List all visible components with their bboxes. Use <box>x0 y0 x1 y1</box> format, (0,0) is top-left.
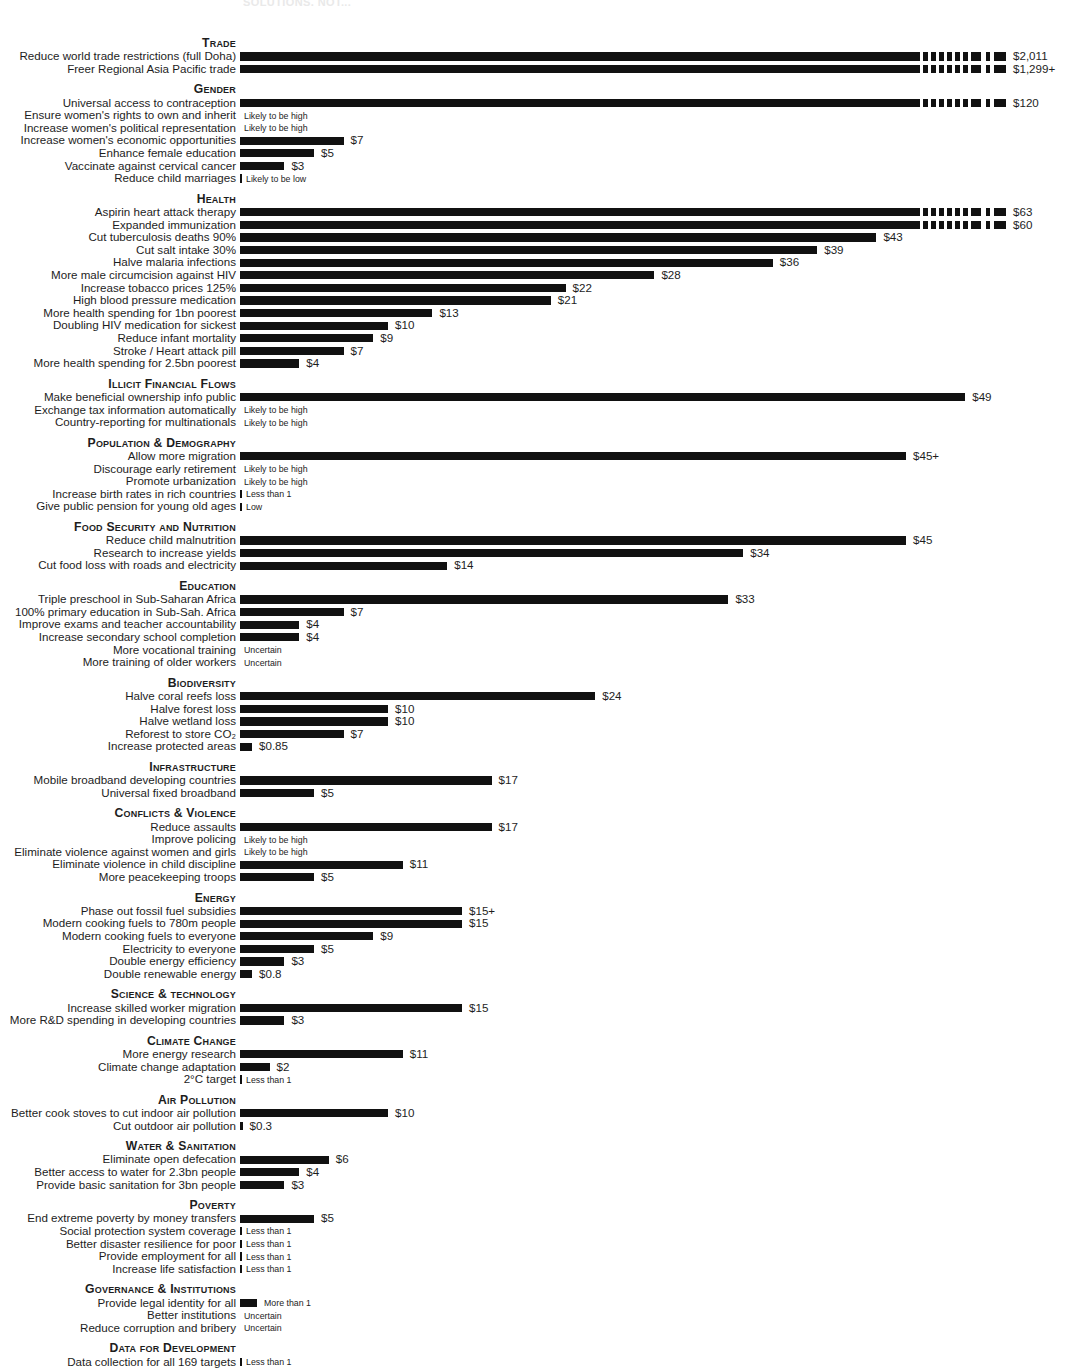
section-header-row: Gender <box>0 83 1077 96</box>
row-label: Double energy efficiency <box>109 955 236 968</box>
row-label: Data collection for all 169 targets <box>67 1356 236 1369</box>
row-label: Make beneficial ownership info public <box>44 391 236 404</box>
chart-row: 2°C targetLess than 1 <box>0 1073 1077 1086</box>
value-label: $60 <box>1013 219 1032 232</box>
value-label: $0.8 <box>259 968 282 981</box>
section-header-row: Health <box>0 193 1077 206</box>
section-title: Population & Demography <box>88 437 236 450</box>
value-label: $9 <box>380 930 393 943</box>
section-title: Gender <box>194 83 236 96</box>
value-bar <box>240 284 566 292</box>
bar-break-pattern <box>920 208 1006 216</box>
value-bar <box>240 1109 388 1117</box>
qualitative-note: Likely to be high <box>244 122 308 135</box>
qualitative-note: Likely to be high <box>244 834 308 847</box>
section-title: Illicit Financial Flows <box>108 378 236 391</box>
qualitative-note: Less than 1 <box>246 1251 291 1264</box>
value-bar-truncated <box>240 99 920 107</box>
row-label: Better institutions <box>147 1309 236 1322</box>
section-header-row: Population & Demography <box>0 437 1077 450</box>
row-label: Triple preschool in Sub-Saharan Africa <box>38 593 236 606</box>
row-label: Reduce world trade restrictions (full Do… <box>19 50 236 63</box>
value-label: $10 <box>395 1107 414 1120</box>
section-header-row: Conflicts & Violence <box>0 807 1077 820</box>
row-label: Modern cooking fuels to everyone <box>62 930 236 943</box>
value-label: $2 <box>277 1061 290 1074</box>
value-label: $21 <box>558 294 577 307</box>
chart-row: Universal fixed broadband$5 <box>0 787 1077 800</box>
value-bar <box>240 334 373 342</box>
qualitative-note: Likely to be high <box>244 846 308 859</box>
row-label: Allow more migration <box>128 450 236 463</box>
value-label: $49 <box>972 391 991 404</box>
row-label: Double renewable energy <box>104 968 236 981</box>
value-label: $1,299+ <box>1013 63 1055 76</box>
value-bar <box>240 1156 329 1164</box>
value-bar <box>240 137 344 145</box>
faint-top-header: SOLUTIONS, NOT... <box>243 0 443 6</box>
chart-row: Cut food loss with roads and electricity… <box>0 559 1077 572</box>
value-label: $4 <box>306 357 319 370</box>
value-bar <box>240 452 906 460</box>
value-bar <box>240 932 373 940</box>
value-bar <box>240 1299 257 1307</box>
value-bar-truncated <box>240 52 920 60</box>
section-title: Energy <box>195 892 236 905</box>
value-label: $63 <box>1013 206 1032 219</box>
value-bar-truncated <box>240 208 920 216</box>
value-label: $3 <box>291 1179 304 1192</box>
value-label: $6 <box>336 1153 349 1166</box>
value-bar <box>240 608 344 616</box>
section-title: Food Security and Nutrition <box>74 521 236 534</box>
row-tick-marker <box>240 490 242 498</box>
value-label: $33 <box>735 593 754 606</box>
chart-row: More health spending for 2.5bn poorest$4 <box>0 357 1077 370</box>
qualitative-note: Less than 1 <box>246 1263 291 1276</box>
chart-row: Freer Regional Asia Pacific trade$1,299+ <box>0 63 1077 76</box>
chart-row: Aspirin heart attack therapy$63 <box>0 206 1077 219</box>
qualitative-note: Likely to be high <box>244 110 308 123</box>
row-label: Better cook stoves to cut indoor air pol… <box>11 1107 236 1120</box>
value-bar <box>240 621 299 629</box>
value-bar <box>240 271 654 279</box>
section-header-row: Energy <box>0 892 1077 905</box>
value-bar <box>240 789 314 797</box>
row-tick-marker <box>240 1227 242 1235</box>
value-label: $43 <box>883 231 902 244</box>
value-label: $14 <box>454 559 473 572</box>
value-label: $36 <box>780 256 799 269</box>
value-bar <box>240 920 462 928</box>
row-label: Social protection system coverage <box>59 1225 236 1238</box>
chart-row: Reduce child marriagesLikely to be low <box>0 172 1077 185</box>
value-label: $5 <box>321 1212 334 1225</box>
row-label: More health spending for 2.5bn poorest <box>34 357 236 370</box>
section-header-row: Education <box>0 580 1077 593</box>
row-label: Improve policing <box>152 833 236 846</box>
value-bar <box>240 823 492 831</box>
value-bar <box>240 1016 284 1024</box>
value-bar <box>240 861 403 869</box>
row-label: Increase secondary school completion <box>39 631 236 644</box>
value-label: $0.85 <box>259 740 288 753</box>
chart-row: Increase life satisfactionLess than 1 <box>0 1263 1077 1276</box>
value-bar <box>240 730 344 738</box>
row-label: Cut food loss with roads and electricity <box>38 559 236 572</box>
qualitative-note: Less than 1 <box>246 488 291 501</box>
chart-row: Modern cooking fuels to everyone$9 <box>0 930 1077 943</box>
value-label: $3 <box>291 160 304 173</box>
row-label: Cut tuberculosis deaths 90% <box>88 231 236 244</box>
chart-row: Mobile broadband developing countries$17 <box>0 774 1077 787</box>
value-bar <box>240 549 743 557</box>
value-label: $17 <box>499 774 518 787</box>
value-bar <box>240 1215 314 1223</box>
chart-row: Reduce world trade restrictions (full Do… <box>0 50 1077 63</box>
row-label: Aspirin heart attack therapy <box>95 206 236 219</box>
chart-row: Increase secondary school completion$4 <box>0 631 1077 644</box>
value-bar <box>240 907 462 915</box>
qualitative-note: Less than 1 <box>246 1074 291 1087</box>
row-tick-marker <box>240 503 242 511</box>
section-title: Poverty <box>189 1199 236 1212</box>
value-bar <box>240 873 314 881</box>
value-label: $0.3 <box>250 1120 273 1133</box>
row-label: 2°C target <box>184 1073 236 1086</box>
